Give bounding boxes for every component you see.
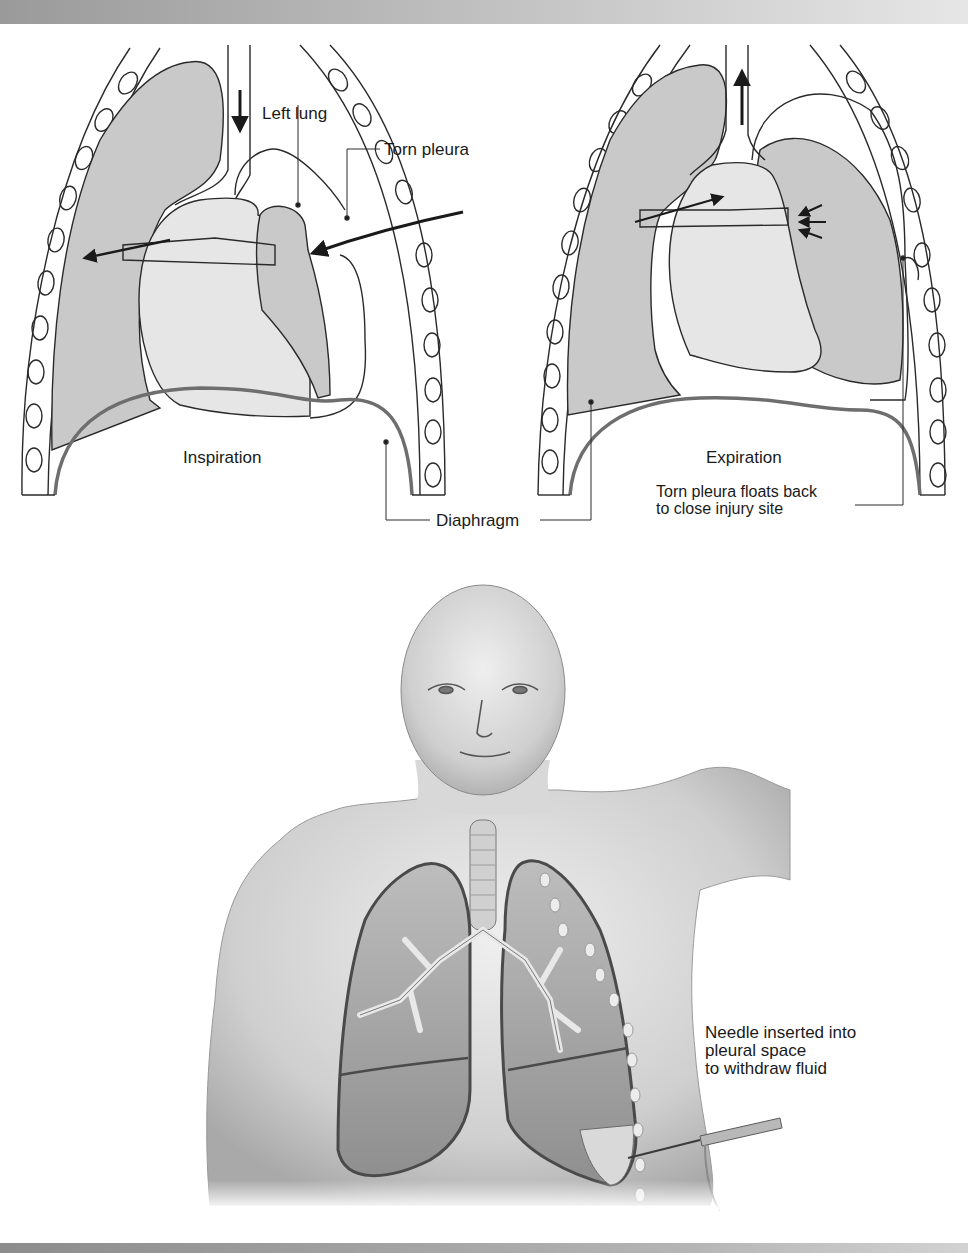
callout-line3: to withdraw fluid [705,1059,827,1078]
head [401,585,565,795]
trachea [470,820,496,930]
cropped-footer-band [0,1243,968,1253]
callout-line2: pleural space [705,1041,806,1060]
callout-line1: Needle inserted into [705,1023,856,1042]
